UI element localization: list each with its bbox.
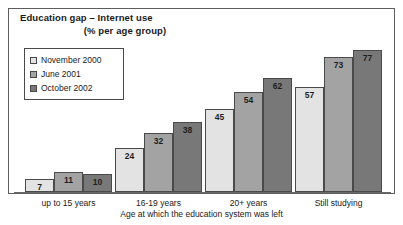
bar-value-label: 38 xyxy=(174,125,201,135)
bar-value-label: 32 xyxy=(145,136,172,146)
bar-value-label: 57 xyxy=(296,90,323,100)
bar-value-label: 10 xyxy=(84,177,111,187)
bar-20-years-october-2002[interactable]: 62 xyxy=(263,78,292,192)
bar-up-to-15-years-october-2002[interactable]: 10 xyxy=(83,174,112,192)
x-axis-baseline xyxy=(14,192,391,193)
bar-still-studying-november-2000[interactable]: 57 xyxy=(295,87,324,192)
bar-value-label: 73 xyxy=(325,60,352,70)
bar-16-19-years-june-2001[interactable]: 32 xyxy=(144,133,173,192)
bar-value-label: 54 xyxy=(235,95,262,105)
bar-value-label: 62 xyxy=(264,81,291,91)
bar-up-to-15-years-november-2000[interactable]: 7 xyxy=(25,179,54,192)
bar-value-label: 77 xyxy=(354,53,381,63)
bar-16-19-years-november-2000[interactable]: 24 xyxy=(115,148,144,192)
bar-value-label: 7 xyxy=(26,182,53,192)
x-axis-label: Age at which the education system was le… xyxy=(0,209,403,220)
bar-up-to-15-years-june-2001[interactable]: 11 xyxy=(54,172,83,192)
bar-20-years-june-2001[interactable]: 54 xyxy=(234,92,263,192)
bar-value-label: 45 xyxy=(206,112,233,122)
bar-value-label: 24 xyxy=(116,151,143,161)
bar-still-studying-october-2002[interactable]: 77 xyxy=(353,50,382,192)
bar-20-years-november-2000[interactable]: 45 xyxy=(205,109,234,192)
bar-16-19-years-october-2002[interactable]: 38 xyxy=(173,122,202,192)
plot-area: 71110243238455462577377 xyxy=(9,9,394,193)
category-label-still-studying: Still studying xyxy=(275,198,402,209)
bar-group-still-studying: 577377 xyxy=(295,17,382,192)
bar-still-studying-june-2001[interactable]: 73 xyxy=(324,57,353,192)
bar-group-16-19-years: 243238 xyxy=(115,17,202,192)
bar-group-up-to-15-years: 71110 xyxy=(25,17,112,192)
chart-figure: Education gap – Internet use (% per age … xyxy=(0,0,403,225)
bar-group-20-years: 455462 xyxy=(205,17,292,192)
bar-value-label: 11 xyxy=(55,175,82,185)
